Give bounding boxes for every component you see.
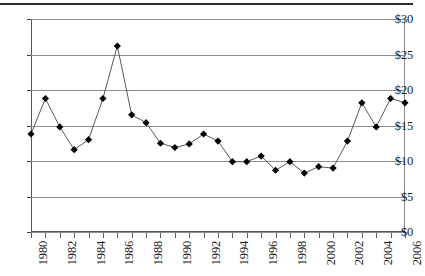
data-point-marker [27, 130, 34, 137]
data-point-marker [128, 111, 135, 118]
x-axis-tick [204, 233, 205, 238]
x-axis-label: 1984 [94, 241, 109, 265]
x-axis-tick [276, 233, 277, 238]
x-axis-tick [117, 233, 118, 238]
y-axis-label: $25 [395, 47, 413, 62]
plot-area [31, 19, 405, 232]
x-axis-tick [31, 233, 32, 238]
x-axis-tick [347, 233, 348, 238]
x-axis-tick [60, 233, 61, 238]
series-polyline [31, 46, 405, 173]
data-point-marker [157, 140, 164, 147]
x-axis-label: 1996 [266, 241, 281, 265]
x-axis-tick [146, 233, 147, 238]
data-point-marker [186, 140, 193, 147]
x-axis-label: 1990 [180, 241, 195, 265]
y-axis [0, 19, 27, 232]
x-axis-tick [333, 233, 334, 238]
data-point-marker [42, 95, 49, 102]
data-point-marker [142, 119, 149, 126]
data-point-marker [56, 123, 63, 130]
data-point-marker [229, 158, 236, 165]
x-axis-tick [189, 233, 190, 238]
y-axis-tick [27, 19, 31, 20]
x-axis-tick [391, 233, 392, 238]
y-axis-tick [27, 126, 31, 127]
y-axis-label: $15 [395, 118, 413, 133]
x-axis-tick [304, 233, 305, 238]
x-axis-label: 1992 [209, 241, 224, 265]
data-point-marker [358, 99, 365, 106]
data-point-marker [401, 99, 408, 106]
data-point-marker [171, 144, 178, 151]
x-axis-tick [89, 233, 90, 238]
data-point-marker [315, 163, 322, 170]
x-axis-tick [45, 233, 46, 238]
data-point-marker [71, 146, 78, 153]
x-axis-tick [376, 233, 377, 238]
x-axis-tick [247, 233, 248, 238]
data-point-marker [200, 130, 207, 137]
page-top-rule [0, 3, 413, 5]
data-point-marker [214, 138, 221, 145]
x-axis-tick [319, 233, 320, 238]
y-axis-tick [27, 197, 31, 198]
series-line [31, 19, 405, 232]
x-axis-tick [218, 233, 219, 238]
data-point-marker [243, 158, 250, 165]
x-axis-label: 1988 [151, 241, 166, 265]
x-axis-label: 2004 [381, 241, 396, 265]
data-point-marker [373, 123, 380, 130]
y-axis-label: $20 [395, 83, 413, 98]
x-axis-label: 1994 [237, 241, 252, 265]
x-axis-label: 2006 [410, 241, 425, 265]
y-axis-tick [27, 55, 31, 56]
x-axis-tick [103, 233, 104, 238]
x-axis-tick [362, 233, 363, 238]
x-axis-tick [232, 233, 233, 238]
data-point-marker [114, 42, 121, 49]
data-point-marker [344, 138, 351, 145]
x-axis-label: 2000 [324, 241, 339, 265]
data-point-marker [85, 136, 92, 143]
y-axis-tick [27, 90, 31, 91]
x-axis-label: 1986 [122, 241, 137, 265]
x-axis-label: 1980 [36, 241, 51, 265]
y-axis-tick [27, 161, 31, 162]
x-axis-tick [74, 233, 75, 238]
x-axis-tick [175, 233, 176, 238]
x-axis-tick [405, 233, 406, 238]
x-axis-label: 1998 [295, 241, 310, 265]
y-axis-label: $0 [401, 225, 413, 240]
y-axis-label: $5 [401, 189, 413, 204]
data-point-marker [329, 165, 336, 172]
data-point-marker [99, 95, 106, 102]
x-axis-label: 1982 [65, 241, 80, 265]
x-axis-tick [160, 233, 161, 238]
data-point-marker [387, 95, 394, 102]
y-axis-label: $30 [395, 12, 413, 27]
x-axis-tick [290, 233, 291, 238]
x-axis-label: 2002 [352, 241, 367, 265]
x-axis-tick [132, 233, 133, 238]
x-axis-tick [261, 233, 262, 238]
y-axis-label: $10 [395, 154, 413, 169]
